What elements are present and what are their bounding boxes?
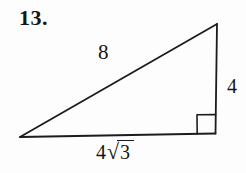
base-coefficient: 4: [96, 141, 106, 163]
base-label: 4√3: [96, 140, 134, 163]
vertical-side-label: 4: [227, 76, 237, 96]
hypotenuse-line: [20, 24, 217, 137]
problem-number: 13.: [19, 7, 48, 29]
base-radicand: 3: [117, 140, 134, 162]
base-line: [20, 134, 216, 138]
vertical-side-line: [216, 24, 218, 134]
geometry-problem-figure: 13. 8 4 4√3: [0, 0, 246, 173]
hypotenuse-label: 8: [98, 42, 109, 63]
right-angle-marker: [197, 115, 216, 134]
